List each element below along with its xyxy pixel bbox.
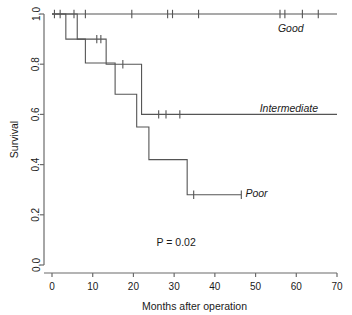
x-tick-label: 30 [169,281,181,292]
x-tick-label: 40 [209,281,221,292]
survival-curve-poor [52,14,241,195]
x-axis-title: Months after operation [142,300,247,312]
y-tick-label: 0.8 [31,57,42,71]
x-axis-ticks: 010203040506070 [49,273,343,292]
survival-plot-svg: 010203040506070 0.00.20.40.60.81.0 GoodI… [0,0,352,315]
y-tick-label: 0.4 [31,157,42,171]
curve-label-poor: Poor [245,187,268,199]
curve-label-intermediate: Intermediate [260,102,319,114]
x-tick-label: 20 [128,281,140,292]
y-tick-label: 0.2 [31,207,42,221]
x-tick-label: 70 [331,281,343,292]
plot-axes [44,14,337,273]
y-tick-label: 0.0 [31,258,42,272]
curve-label-good: Good [278,22,305,34]
chart-annotations: P = 0.02 [157,236,196,248]
x-tick-label: 60 [291,281,303,292]
y-tick-label: 1.0 [31,7,42,21]
x-tick-label: 50 [250,281,262,292]
curve-labels: GoodIntermediatePoor [245,22,318,200]
y-axis-ticks: 0.00.20.40.60.81.0 [31,7,45,272]
x-tick-label: 0 [49,281,55,292]
x-tick-label: 10 [87,281,99,292]
y-tick-label: 0.6 [31,107,42,121]
y-axis-title: Survival [8,121,20,158]
survival-chart-figure: 010203040506070 0.00.20.40.60.81.0 GoodI… [0,0,352,315]
pvalue-annotation: P = 0.02 [157,236,196,248]
